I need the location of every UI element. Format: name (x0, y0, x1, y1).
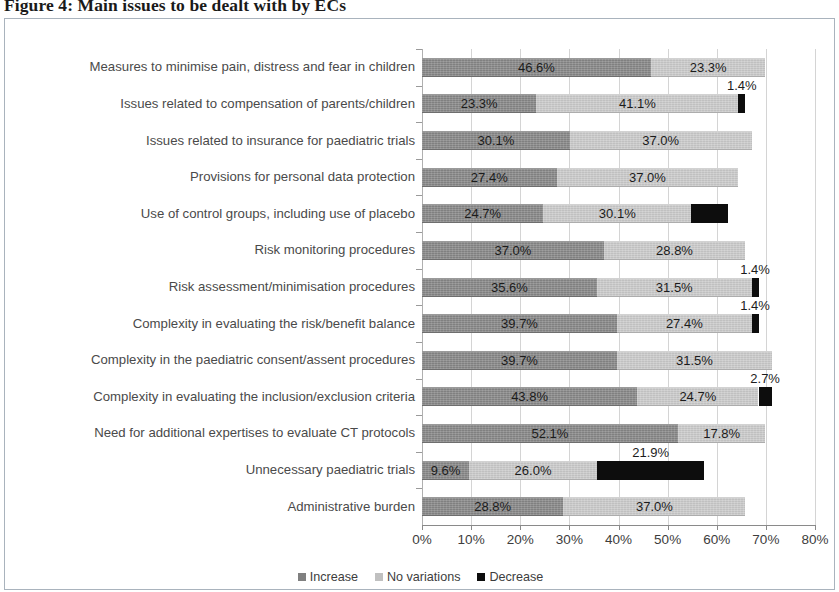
category-label: Issues related to compensation of parent… (15, 97, 415, 111)
x-axis-tick-label: 40% (594, 532, 644, 547)
bar-value-label: 1.4% (725, 262, 785, 278)
y-axis-tick (416, 379, 422, 380)
category-label: Complexity in evaluating the inclusion/e… (15, 390, 415, 404)
bar-value-label: 23.3% (449, 94, 509, 113)
bar-value-label: 27.4% (459, 168, 519, 187)
category-axis-labels: Measures to minimise pain, distress and … (10, 49, 415, 525)
bar-segment-decrease (691, 204, 728, 223)
bar-segment-decrease (752, 314, 759, 333)
bar-value-label: 30.1% (466, 131, 526, 150)
x-axis-tick (471, 525, 472, 530)
bar-row: 35.6%31.5%1.4% (422, 278, 815, 297)
bar-value-label: 31.5% (644, 278, 704, 297)
bar-row: 39.7%27.4%1.4% (422, 314, 815, 333)
category-label: Unnecessary paediatric trials (15, 463, 415, 477)
y-axis-tick (416, 195, 422, 196)
bar-row: 23.3%41.1%1.4% (422, 94, 815, 113)
x-axis-tick-label: 60% (692, 532, 742, 547)
bar-value-label: 26.0% (503, 461, 563, 480)
bar-value-label: 52.1% (520, 424, 580, 443)
bar-value-label: 37.0% (631, 131, 691, 150)
x-axis-tick (619, 525, 620, 530)
bar-value-label: 37.0% (483, 241, 543, 260)
y-axis-tick (416, 415, 422, 416)
bar-value-label: 35.6% (479, 278, 539, 297)
square-swatch-icon (375, 573, 383, 581)
x-axis-tick (766, 525, 767, 530)
x-axis-tick (422, 525, 423, 530)
y-axis-tick (416, 269, 422, 270)
legend-label: Decrease (489, 570, 543, 584)
x-axis-tick (520, 525, 521, 530)
square-swatch-icon (298, 573, 306, 581)
bar-value-label: 31.5% (664, 351, 724, 370)
x-axis-tick-label: 10% (446, 532, 496, 547)
x-axis-tick-label: 50% (643, 532, 693, 547)
y-axis-tick (416, 122, 422, 123)
x-axis-tick (815, 525, 816, 530)
x-axis-tick (717, 525, 718, 530)
bar-value-label: 37.0% (617, 168, 677, 187)
bar-value-label: 17.8% (692, 424, 752, 443)
bar-segment-decrease (752, 278, 759, 297)
legend-item: Decrease (477, 570, 543, 584)
bar-value-label: 23.3% (678, 58, 738, 77)
category-label: Need for additional expertises to evalua… (15, 426, 415, 440)
bar-value-label: 39.7% (490, 351, 550, 370)
category-label: Administrative burden (15, 500, 415, 514)
chart-frame: Measures to minimise pain, distress and … (4, 18, 835, 590)
bar-value-label: 24.7% (453, 204, 513, 223)
square-swatch-icon (477, 573, 485, 581)
gridline (815, 49, 816, 525)
x-axis-tick-label: 80% (790, 532, 839, 547)
bar-value-label: 28.8% (645, 241, 705, 260)
y-axis-tick (416, 342, 422, 343)
y-axis-tick (416, 305, 422, 306)
figure-title: Figure 4: Main issues to be dealt with b… (4, 0, 604, 17)
y-axis-tick (416, 488, 422, 489)
bar-value-label: 41.1% (607, 94, 667, 113)
legend-label: Increase (310, 570, 358, 584)
category-label: Issues related to insurance for paediatr… (15, 134, 415, 148)
x-axis-tick-label: 30% (544, 532, 594, 547)
y-axis-tick (416, 232, 422, 233)
bar-row: 52.1%17.8% (422, 424, 815, 443)
category-label: Risk monitoring procedures (15, 243, 415, 257)
y-axis-tick (416, 86, 422, 87)
bar-segment-decrease (597, 461, 705, 480)
bar-row: 27.4%37.0% (422, 168, 815, 187)
category-label: Measures to minimise pain, distress and … (15, 60, 415, 74)
bar-row: 37.0%28.8% (422, 241, 815, 260)
bar-value-label: 2.7% (735, 371, 795, 387)
bar-row: 46.6%23.3% (422, 58, 815, 77)
category-label: Risk assessment/minimisation procedures (15, 280, 415, 294)
legend-label: No variations (387, 570, 461, 584)
bar-row: 30.1%37.0% (422, 131, 815, 150)
y-axis-tick (416, 452, 422, 453)
bar-row: 28.8%37.0% (422, 497, 815, 516)
bar-value-label: 37.0% (624, 497, 684, 516)
x-axis-tick-labels: 0%10%20%30%40%50%60%70%80% (422, 532, 816, 552)
bar-value-label: 1.4% (725, 298, 785, 314)
bar-segment-decrease (759, 387, 772, 406)
bar-segment-decrease (738, 94, 745, 113)
legend-item: Increase (298, 570, 358, 584)
bar-value-label: 30.1% (587, 204, 647, 223)
bar-value-label: 21.9% (621, 445, 681, 461)
y-axis-tick (416, 159, 422, 160)
category-label: Use of control groups, including use of … (15, 207, 415, 221)
bar-row: 24.7%30.1% (422, 204, 815, 223)
x-axis-tick-label: 70% (741, 532, 791, 547)
legend-item: No variations (375, 570, 461, 584)
plot-area: 46.6%23.3%23.3%41.1%1.4%30.1%37.0%27.4%3… (422, 49, 815, 525)
bar-value-label: 39.7% (490, 314, 550, 333)
x-axis-tick (569, 525, 570, 530)
bar-value-label: 1.4% (712, 78, 772, 94)
bar-value-label: 27.4% (654, 314, 714, 333)
bar-value-label: 46.6% (506, 58, 566, 77)
x-axis-tick (668, 525, 669, 530)
bar-value-label: 24.7% (668, 387, 728, 406)
x-axis-tick-label: 20% (495, 532, 545, 547)
x-axis-tick-label: 0% (397, 532, 447, 547)
y-axis-tick (416, 49, 422, 50)
